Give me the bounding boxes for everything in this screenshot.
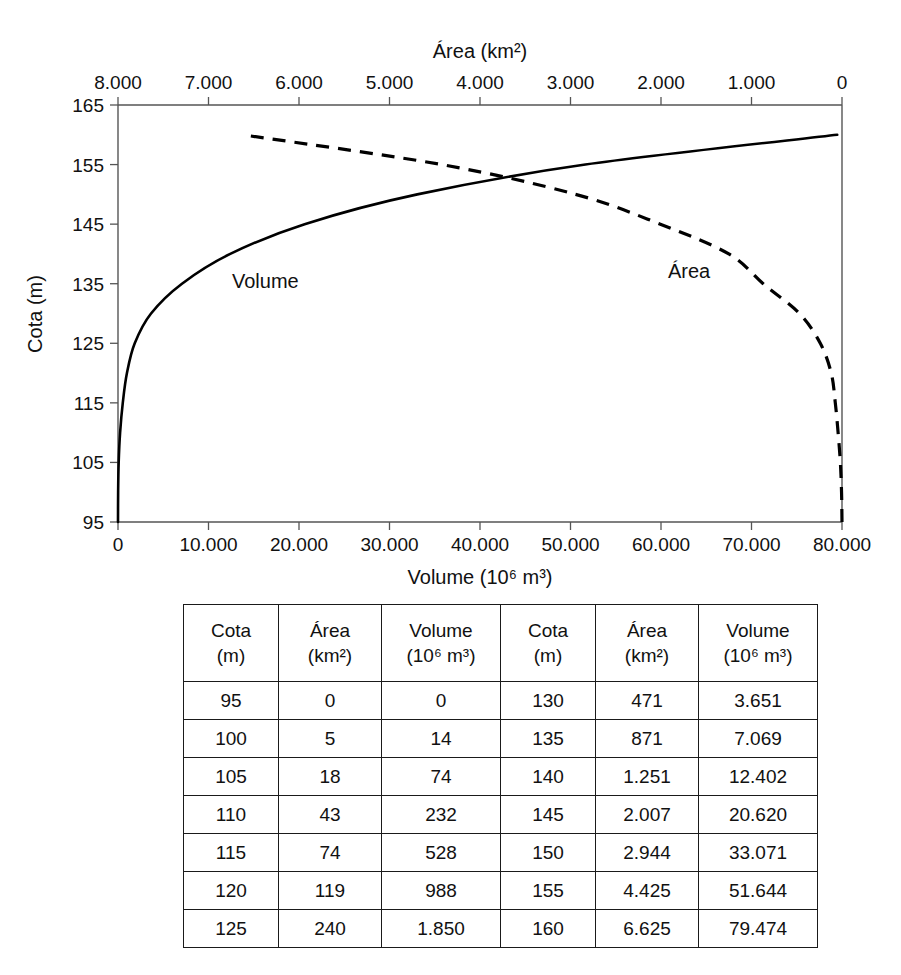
bottom-tick-label: 0: [113, 534, 124, 555]
cell-cota: 140: [501, 758, 596, 796]
cell-area: 1.251: [596, 758, 699, 796]
table-row: 1252401.850: [184, 910, 501, 948]
top-axis-ticks: 8.0007.0006.0005.0004.0003.0002.0001.000…: [94, 72, 847, 105]
left-tick-label: 155: [72, 155, 104, 176]
bottom-tick-label: 50.000: [541, 534, 599, 555]
cell-area: 18: [279, 758, 382, 796]
left-tick-label: 145: [72, 214, 104, 235]
header-cell-cota: Cota (m): [501, 605, 596, 682]
cell-cota: 110: [184, 796, 279, 834]
header-cell-cota: Cota (m): [184, 605, 279, 682]
cell-area: 240: [279, 910, 382, 948]
table-row: 1606.62579.474: [501, 910, 818, 948]
cell-volume: 12.402: [699, 758, 818, 796]
table-row: 9500: [184, 682, 501, 720]
cell-volume: 51.644: [699, 872, 818, 910]
top-tick-label: 4.000: [456, 72, 504, 93]
left-tick-label: 125: [72, 333, 104, 354]
cell-volume: 232: [382, 796, 501, 834]
bottom-tick-label: 60.000: [632, 534, 690, 555]
bottom-tick-label: 40.000: [451, 534, 509, 555]
left-tick-label: 135: [72, 274, 104, 295]
left-axis-title: Cota (m): [24, 275, 46, 353]
cell-area: 74: [279, 834, 382, 872]
header-cota-line1: Cota: [507, 620, 589, 642]
top-tick-label: 5.000: [366, 72, 414, 93]
cell-volume: 0: [382, 682, 501, 720]
table-header-row: Cota (m) Área (km²) Volume (10⁶ m³): [501, 605, 818, 682]
cell-cota: 95: [184, 682, 279, 720]
header-cell-volume: Volume (10⁶ m³): [382, 605, 501, 682]
header-cell-volume: Volume (10⁶ m³): [699, 605, 818, 682]
cell-volume: 20.620: [699, 796, 818, 834]
header-area-line1: Área: [285, 620, 375, 642]
top-tick-label: 8.000: [94, 72, 142, 93]
cell-area: 871: [596, 720, 699, 758]
cell-area: 119: [279, 872, 382, 910]
header-cota-line1: Cota: [190, 620, 272, 642]
area-series-label: Área: [668, 260, 711, 282]
table-row: 120119988: [184, 872, 501, 910]
header-cell-area: Área (km²): [279, 605, 382, 682]
cell-cota: 115: [184, 834, 279, 872]
bottom-tick-label: 80.000: [813, 534, 871, 555]
cell-cota: 120: [184, 872, 279, 910]
cell-volume: 14: [382, 720, 501, 758]
table-row: 1554.42551.644: [501, 872, 818, 910]
cell-volume: 74: [382, 758, 501, 796]
header-cota-line2: (m): [190, 645, 272, 667]
bottom-axis-ticks: 010.00020.00030.00040.00050.00060.00070.…: [113, 522, 871, 555]
elevation-area-volume-chart: Área (km²) 8.0007.0006.0005.0004.0003.00…: [0, 0, 901, 600]
left-tick-label: 105: [72, 452, 104, 473]
cell-volume: 3.651: [699, 682, 818, 720]
table-row: 1452.00720.620: [501, 796, 818, 834]
bottom-tick-label: 20.000: [270, 534, 328, 555]
cell-volume: 33.071: [699, 834, 818, 872]
cell-area: 2.007: [596, 796, 699, 834]
volume-curve: [118, 135, 837, 522]
top-tick-label: 7.000: [185, 72, 233, 93]
cell-area: 2.944: [596, 834, 699, 872]
top-tick-label: 0: [837, 72, 848, 93]
left-tick-label: 95: [83, 512, 104, 533]
right-data-table: Cota (m) Área (km²) Volume (10⁶ m³) 1304…: [500, 604, 818, 948]
cell-area: 4.425: [596, 872, 699, 910]
header-cell-area: Área (km²): [596, 605, 699, 682]
cell-cota: 160: [501, 910, 596, 948]
cell-volume: 1.850: [382, 910, 501, 948]
top-tick-label: 6.000: [275, 72, 323, 93]
cell-cota: 135: [501, 720, 596, 758]
right-table-head: Cota (m) Área (km²) Volume (10⁶ m³): [501, 605, 818, 682]
table-row: 1401.25112.402: [501, 758, 818, 796]
cell-cota: 150: [501, 834, 596, 872]
right-table-body: 1304713.6511358717.0691401.25112.4021452…: [501, 682, 818, 948]
bottom-tick-label: 70.000: [722, 534, 780, 555]
header-area-line2: (km²): [285, 645, 375, 667]
table-row: 11574528: [184, 834, 501, 872]
plot-frame: [118, 105, 842, 522]
left-table-body: 9500100514105187411043232115745281201199…: [184, 682, 501, 948]
cell-area: 471: [596, 682, 699, 720]
left-table-head: Cota (m) Área (km²) Volume (10⁶ m³): [184, 605, 501, 682]
cell-cota: 105: [184, 758, 279, 796]
table-row: 11043232: [184, 796, 501, 834]
volume-series-label: Volume: [232, 270, 299, 292]
header-cota-line2: (m): [507, 645, 589, 667]
cell-volume: 528: [382, 834, 501, 872]
left-tick-label: 165: [72, 95, 104, 116]
cell-volume: 7.069: [699, 720, 818, 758]
left-axis-ticks: 95105115125135145155165: [72, 95, 118, 533]
table-row: 1502.94433.071: [501, 834, 818, 872]
header-volume-line1: Volume: [705, 620, 811, 642]
top-axis-title: Área (km²): [433, 40, 527, 62]
top-tick-label: 1.000: [728, 72, 776, 93]
cell-area: 0: [279, 682, 382, 720]
header-volume-line2: (10⁶ m³): [388, 645, 494, 667]
bottom-tick-label: 30.000: [360, 534, 418, 555]
bottom-axis-title: Volume (10⁶ m³): [408, 566, 553, 588]
cell-volume: 988: [382, 872, 501, 910]
table-row: 1358717.069: [501, 720, 818, 758]
chart-figure: Área (km²) 8.0007.0006.0005.0004.0003.00…: [0, 0, 901, 600]
header-area-line2: (km²): [602, 645, 692, 667]
cell-cota: 100: [184, 720, 279, 758]
